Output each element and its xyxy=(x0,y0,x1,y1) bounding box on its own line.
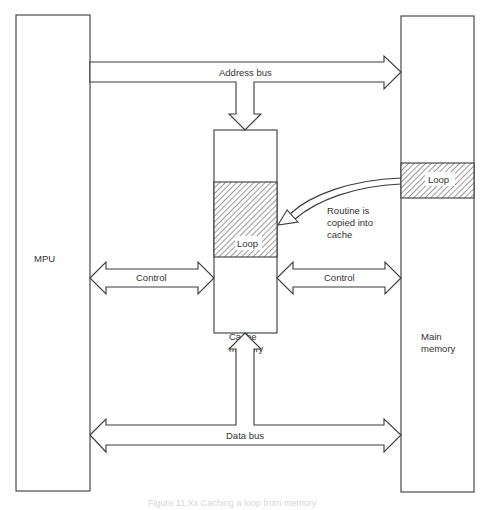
data-bus-label: Data bus xyxy=(226,430,264,441)
annotation-line3: cache xyxy=(327,229,352,240)
figure-caption: Figure 11.Xx Caching a loop from memory xyxy=(148,498,317,508)
control-bus-right-arrow: Control xyxy=(277,262,401,294)
annotation-line1: Routine is xyxy=(327,205,369,216)
mpu-block: MPU xyxy=(16,15,90,491)
mpu-label: MPU xyxy=(34,253,55,264)
control-bus-left-label: Control xyxy=(136,272,167,283)
cache-memory-block: Loop Cache memory xyxy=(214,130,277,354)
address-bus-label: Address bus xyxy=(219,67,272,78)
control-bus-left-arrow: Control xyxy=(90,262,214,294)
control-bus-right-label: Control xyxy=(324,272,355,283)
copy-annotation: Routine is copied into cache xyxy=(327,205,373,240)
main-memory-loop-label: Loop xyxy=(428,174,449,185)
main-memory-label-line2: memory xyxy=(421,343,456,354)
cache-diagram: MPU Loop Main memory Loop Cache memory A… xyxy=(0,0,489,510)
data-bus-arrow: Data bus xyxy=(90,333,401,452)
cache-loop-label: Loop xyxy=(237,238,258,249)
main-memory-label-line1: Main xyxy=(421,331,442,342)
main-memory-block: Loop Main memory xyxy=(401,16,474,492)
annotation-line2: copied into xyxy=(327,217,373,228)
address-bus-arrow: Address bus xyxy=(90,56,401,130)
